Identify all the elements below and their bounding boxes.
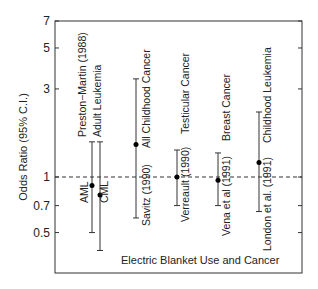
forest-plot: 0.50.71357 Odds Ratio (95% C.I.) Preston… xyxy=(0,0,318,289)
label-verreault-cancer: Testicular Cancer xyxy=(179,52,191,134)
y-tick-label: 0.5 xyxy=(33,226,50,240)
y-tick-label: 3 xyxy=(43,82,50,96)
label-vena: Vena et al (1991) xyxy=(220,156,232,236)
y-tick-label: 7 xyxy=(43,14,50,28)
label-savitz: Savitz (1990) xyxy=(140,164,152,226)
label-verreault: Verreault (1990) xyxy=(179,147,191,222)
label-savitz-cancer: All Childhood Cancer xyxy=(140,49,152,148)
label-london-cancer: Childhood Leukemia xyxy=(261,47,273,143)
label-london: London et al. (1991) xyxy=(261,157,273,251)
study-estimates xyxy=(89,79,262,251)
y-tick-label: 1 xyxy=(43,170,50,184)
label-adult-leukemia: Adult Leukemia xyxy=(91,64,103,137)
y-tick-label: 5 xyxy=(43,41,50,55)
study-estimate xyxy=(133,79,139,218)
label-preston-martin: Preston−Martin (1988) xyxy=(76,32,88,137)
point-estimate xyxy=(90,183,95,188)
label-vena-cancer: Breast Cancer xyxy=(220,73,232,141)
y-tick-label: 0.7 xyxy=(33,199,50,213)
point-estimate xyxy=(134,142,139,147)
label-cml: CML xyxy=(98,181,110,203)
label-aml: AML xyxy=(78,181,90,203)
chart-title: Electric Blanket Use and Cancer xyxy=(121,254,280,266)
y-axis-label: Odds Ratio (95% C.I.) xyxy=(17,93,29,201)
